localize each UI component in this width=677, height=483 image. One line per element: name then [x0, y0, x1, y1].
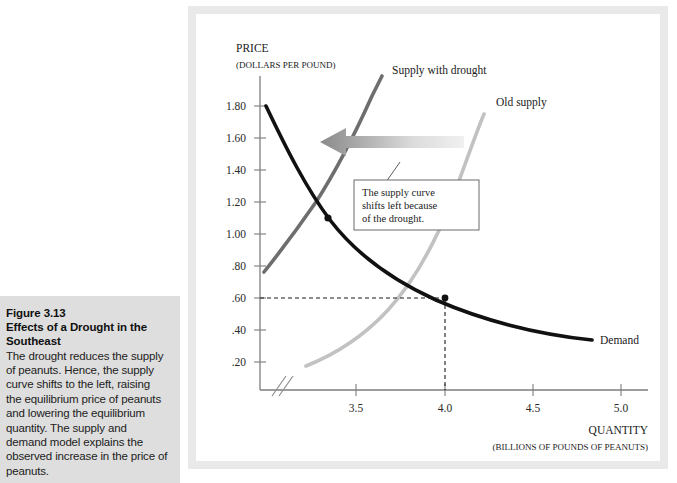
axis-break-mark — [272, 376, 293, 396]
figure-number: Figure 3.13 — [6, 307, 66, 319]
callout-line-2: shifts left because — [362, 200, 438, 211]
y-tick-label: 1.40 — [226, 164, 246, 176]
new-equilibrium-point — [324, 214, 331, 221]
figure-caption-block: Figure 3.13 Effects of a Drought in the … — [0, 296, 180, 483]
curve-old-supply — [306, 114, 484, 366]
x-axis-title: QUANTITY — [589, 424, 649, 436]
x-tick-label: 5.0 — [614, 402, 629, 414]
figure-panel: PRICE (DOLLARS PER POUND) 1 — [188, 6, 668, 469]
chart-area: PRICE (DOLLARS PER POUND) 1 — [196, 14, 660, 461]
callout-line-3: of the drought. — [362, 213, 424, 224]
x-tick-label: 4.0 — [438, 402, 453, 414]
curve-label-demand: Demand — [600, 334, 639, 346]
callout-line-1: The supply curve — [362, 187, 435, 198]
curve-label-old-supply: Old supply — [496, 96, 547, 109]
old-equilibrium-point — [442, 295, 449, 302]
y-tick-label: 1.00 — [226, 228, 246, 240]
figure-title: Effects of a Drought in the Southeast — [6, 321, 147, 347]
supply-demand-chart: PRICE (DOLLARS PER POUND) 1 — [196, 14, 660, 461]
x-axis-units: (BILLIONS OF POUNDS OF PEANUTS) — [492, 442, 648, 452]
y-tick-label: .40 — [232, 324, 247, 336]
curve-label-supply-with-drought: Supply with drought — [392, 64, 487, 77]
x-axis-ticks: 3.5 4.0 4.5 5.0 — [349, 384, 629, 414]
y-tick-label: 1.20 — [226, 196, 246, 208]
figure-caption-body: The drought reduces the supply of peanut… — [6, 349, 168, 479]
x-tick-label: 3.5 — [349, 402, 364, 414]
y-axis-title: PRICE — [236, 42, 269, 54]
y-axis-units: (DOLLARS PER POUND) — [236, 60, 336, 70]
y-tick-label: 1.80 — [226, 100, 246, 112]
old-equilibrium-guides — [260, 298, 445, 390]
y-tick-label: .80 — [232, 260, 247, 272]
y-tick-label: .60 — [232, 292, 247, 304]
shift-arrow-icon — [320, 128, 464, 156]
y-tick-label: 1.60 — [226, 132, 246, 144]
figure-caption-heading: Figure 3.13 Effects of a Drought in the … — [6, 306, 168, 349]
y-tick-label: .20 — [232, 356, 247, 368]
curve-supply-with-drought — [264, 76, 382, 272]
x-tick-label: 4.5 — [526, 402, 541, 414]
